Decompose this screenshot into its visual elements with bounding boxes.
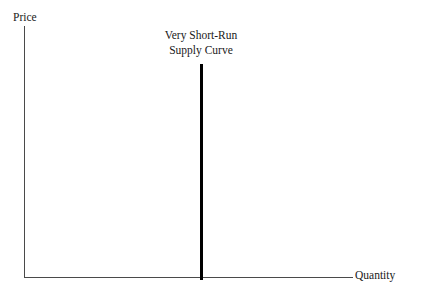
very-short-run-supply-chart: Price Quantity Very Short-Run Supply Cur… <box>0 0 425 295</box>
x-axis-line <box>24 277 353 278</box>
annotation-line-1: Very Short-Run <box>126 28 276 43</box>
annotation-line-2: Supply Curve <box>126 43 276 58</box>
supply-curve-annotation: Very Short-Run Supply Curve <box>126 28 276 58</box>
x-axis-label: Quantity <box>355 270 395 282</box>
y-axis-line <box>24 26 25 278</box>
supply-curve-line <box>200 64 203 280</box>
y-axis-label: Price <box>13 12 37 24</box>
